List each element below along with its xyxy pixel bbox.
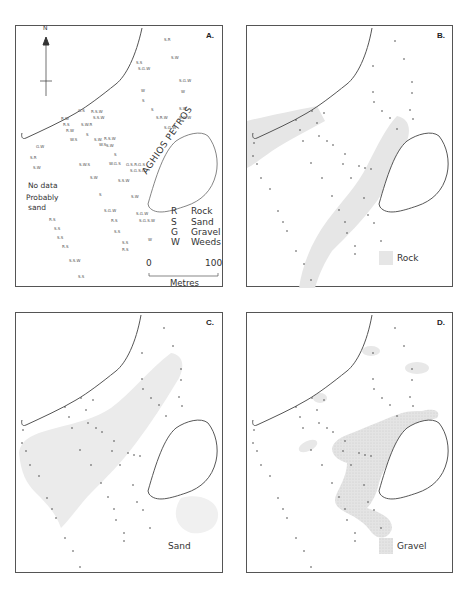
gravel-patch-west [297,437,319,455]
sand-legend-label: Sand [168,541,191,551]
gravel-legend-swatch [379,538,393,554]
svg-text:R.S.W: R.S.W [91,109,103,114]
svg-text:R.S: R.S [111,218,118,223]
svg-text:S.R.W: S.R.W [156,115,168,120]
svg-text:S.G.S.W: S.G.S.W [139,218,155,223]
sand-note-label: sand [28,203,46,212]
panel-b-label: B. [437,31,445,40]
panel-b-rock-map: B. Rock [246,25,453,287]
north-label: N [43,24,48,31]
panel-c-sand-map: C. Sand [15,312,223,573]
panel-a-label: A. [206,31,214,40]
svg-text:R.W: R.W [61,116,69,121]
svg-text:S: S [142,98,145,103]
panel-d-map-drawing [247,313,454,574]
svg-text:R.S: R.S [62,244,69,249]
svg-text:G.W: G.W [36,144,44,149]
svg-text:G.S: G.S [78,108,85,113]
key-row-sand: SSand [171,217,214,227]
svg-text:S.G.W: S.G.W [179,78,191,83]
svg-text:S.W: S.W [33,165,41,170]
scale-start: 0 [146,258,152,268]
svg-text:S.G.W: S.G.W [138,66,150,71]
panel-d-gravel-map: D. Gravel [246,312,453,573]
panel-c-map-drawing [16,313,224,574]
rock-legend-swatch [379,251,393,265]
svg-text:S: S [114,152,117,157]
svg-text:S.S.W: S.S.W [93,115,105,120]
svg-text:S: S [86,132,89,137]
svg-text:W: W [181,89,185,94]
svg-text:R.S.W: R.S.W [104,136,116,141]
north-arrow [40,37,52,96]
key-row-weeds: WWeeds [171,237,221,247]
svg-text:S.S: S.S [114,229,121,234]
svg-text:S.S.W: S.S.W [69,258,81,263]
panel-c-label: C. [206,318,214,327]
svg-text:S: S [99,192,102,197]
scale-unit: Metres [170,278,199,288]
svg-text:W: W [141,88,145,93]
svg-text:S.S: S.S [78,274,85,279]
svg-text:S.W: S.W [90,175,98,180]
panel-a-map-drawing: S.RS.W S.SS.G.W S.G.WW WS SS.R.W S.WS.G.… [16,26,224,288]
sand-zone-southeast [176,496,218,533]
svg-text:S.S.W: S.S.W [118,178,130,183]
svg-text:W.G.S: W.G.S [109,161,121,166]
svg-text:S.W: S.W [171,55,179,60]
svg-text:S.W.R: S.W.R [81,122,93,127]
panel-b-map-drawing [247,26,454,288]
scale-end: 100 [205,258,222,268]
svg-text:W.S: W.S [70,137,78,142]
svg-text:S.G.W: S.G.W [104,208,116,213]
svg-text:S.G.W: S.G.W [136,211,148,216]
panel-a-station-map: S.RS.W S.SS.G.W S.G.WW WS SS.R.W S.WS.G.… [15,25,223,287]
key-row-gravel: GGravel [171,227,221,237]
svg-text:S.S: S.S [57,235,64,240]
svg-text:R.S: R.S [63,122,70,127]
rock-legend-label: Rock [397,253,419,263]
station-marks: S.RS.W S.SS.G.W S.G.WW WS SS.R.W S.WS.G.… [30,37,191,279]
svg-text:S.S: S.S [122,240,129,245]
svg-text:S.W.S: S.W.S [79,162,91,167]
svg-text:R.S: R.S [49,217,56,222]
gravel-patch-north [362,346,380,356]
no-data-label: No data [28,181,57,190]
island-outline [148,420,217,499]
sand-zone-main [19,353,182,528]
key-row-rock: RRock [171,206,213,216]
svg-text:S: S [151,107,154,112]
svg-text:S.R: S.R [30,155,37,160]
gravel-patch-northeast [405,362,429,374]
svg-text:R.W: R.W [66,128,74,133]
svg-text:S.S: S.S [54,226,61,231]
svg-text:R.S: R.S [122,247,129,252]
probably-label: Probably [26,193,59,202]
svg-text:S.R: S.R [164,37,171,42]
svg-text:S.S: S.S [136,60,143,65]
svg-text:S.W: S.W [131,194,139,199]
svg-text:S.W: S.W [106,143,114,148]
svg-text:W: W [148,237,152,242]
coastline [253,315,372,426]
gravel-legend-label: Gravel [397,541,427,551]
panel-d-label: D. [437,318,445,327]
